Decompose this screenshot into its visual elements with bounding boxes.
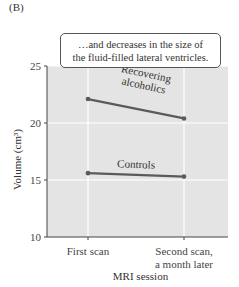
y-tick-label: 10: [30, 231, 42, 243]
x-axis-title: MRI session: [113, 270, 169, 282]
data-point: [182, 174, 187, 179]
x-tick-label: Second scan,a month later: [155, 245, 213, 270]
series-label-line: Controls: [117, 157, 155, 170]
x-tick-label: First scan: [67, 245, 110, 257]
annotation-box: …and decreases in the size of the fluid-…: [60, 33, 221, 68]
y-axis-title: Volume (cm³): [11, 129, 24, 190]
data-point: [182, 116, 187, 121]
data-point: [86, 97, 91, 102]
y-tick-label: 15: [30, 174, 42, 186]
plot-background: [47, 66, 228, 237]
x-tick-label-line: Second scan,: [155, 245, 213, 257]
y-tick-label: 20: [30, 117, 42, 129]
data-point: [86, 171, 91, 176]
x-tick-label-line: First scan: [67, 245, 110, 257]
y-tick-label: 25: [30, 60, 42, 72]
annotation-line-2: the fluid-filled lateral ventricles.: [61, 51, 220, 64]
series-label: Controls: [117, 157, 155, 170]
x-tick-label-line: a month later: [155, 258, 213, 270]
annotation-line-1: …and decreases in the size of: [61, 38, 220, 51]
